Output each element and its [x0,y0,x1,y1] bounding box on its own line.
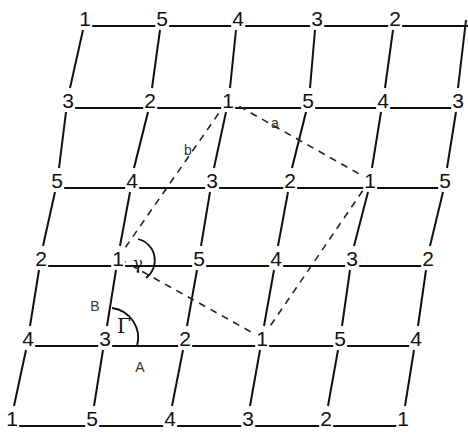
label-Gamma: Γ [117,316,131,336]
label-a: a [271,116,279,130]
lattice-node: 4 [231,8,245,29]
lattice-node: 4 [269,248,283,269]
lattice-node: 2 [283,170,297,191]
lattice-node: 3 [61,90,75,111]
lattice-node: 3 [451,90,465,111]
lattice-node: 5 [192,248,206,269]
lattice-lines [0,0,468,446]
lattice-node: 1 [363,170,377,191]
lattice-node: 1 [111,248,125,269]
lattice-node: 2 [421,248,435,269]
lattice-node: 3 [205,170,219,191]
lattice-node: 1 [221,90,235,111]
lattice-node: 3 [241,408,255,429]
lattice-node: 2 [388,8,402,29]
lattice-node: 5 [85,408,99,429]
lattice-diagram: 15432321543543215215432432154154321 a b … [0,0,468,446]
lattice-node: 4 [376,90,390,111]
lattice-node: 2 [319,408,333,429]
lattice-node: 2 [178,328,192,349]
label-b: b [184,143,192,157]
label-A: A [135,360,144,374]
lattice-node: 3 [310,8,324,29]
lattice-node: 4 [125,170,139,191]
lattice-node: 5 [333,328,347,349]
lattice-node: 1 [396,408,410,429]
lattice-node: 4 [409,328,423,349]
lattice-node: 1 [78,8,92,29]
lattice-node: 2 [143,90,157,111]
lattice-node: 1 [255,328,269,349]
lattice-node: 5 [50,170,64,191]
lattice-node: 3 [345,248,359,269]
lattice-node: 1 [5,408,19,429]
lattice-node: 4 [21,328,35,349]
lattice-node: 2 [34,248,48,269]
lattice-node: 5 [438,170,452,191]
label-B: B [90,299,99,313]
lattice-node: 5 [301,90,315,111]
label-gamma: γ [133,256,143,272]
lattice-node: 4 [163,408,177,429]
lattice-node: 5 [155,8,169,29]
lattice-node: 3 [98,328,112,349]
